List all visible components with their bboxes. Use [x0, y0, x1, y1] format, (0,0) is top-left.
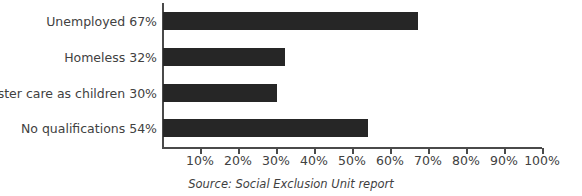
horizontal-bar-chart: Unemployed 67% Homeless 32% In foster ca…: [0, 0, 582, 196]
plot-area: 10%20%30%40%50%60%70%80%90%100%: [162, 3, 542, 147]
bar-homeless: [163, 48, 285, 66]
category-label-foster-care: In foster care as children 30%: [0, 88, 157, 101]
bar-no-qualifications: [163, 119, 368, 137]
x-axis-tick-label: 100%: [512, 155, 572, 168]
category-label-unemployed: Unemployed 67%: [0, 16, 157, 29]
source-note: Source: Social Exclusion Unit report: [0, 177, 582, 191]
bar-unemployed: [163, 12, 418, 30]
bar-foster-care: [163, 84, 277, 102]
category-label-homeless: Homeless 32%: [0, 52, 157, 65]
category-label-no-qualifications: No qualifications 54%: [0, 123, 157, 136]
